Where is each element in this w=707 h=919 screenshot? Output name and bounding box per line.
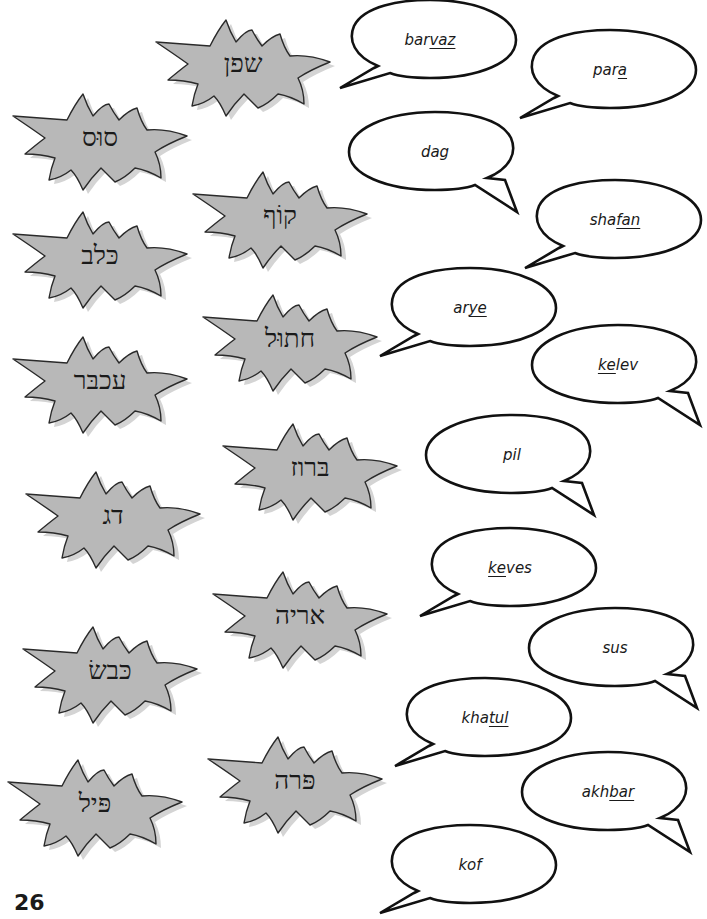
hebrew-word-text: סוּס <box>5 82 195 192</box>
hebrew-word-text: אריה <box>205 560 395 670</box>
transliteration-text: keves <box>488 559 532 577</box>
hebrew-word-burst-keves: כּבשׂ <box>15 615 205 725</box>
speech-bubble-kof: kof <box>380 825 560 919</box>
transliteration-text: arye <box>453 299 486 317</box>
transliteration-text: shafan <box>590 211 641 229</box>
transliteration-text: kelev <box>598 356 638 374</box>
transliteration-text: akhbar <box>582 783 634 801</box>
hebrew-word-burst-pil: פּיל <box>0 748 190 858</box>
hebrew-word-burst-para: פּרה <box>200 725 390 835</box>
hebrew-word-text: פּרה <box>200 725 390 835</box>
transliteration-text: pil <box>503 446 521 464</box>
hebrew-word-burst-sus: סוּס <box>5 82 195 192</box>
hebrew-word-text: דג <box>18 460 208 570</box>
speech-bubble-shape-icon <box>528 325 707 425</box>
transliteration-text: khatul <box>462 709 509 727</box>
speech-bubble-shape-icon <box>345 112 525 212</box>
speech-bubble-dag: dag <box>345 112 525 212</box>
speech-bubble-shape-icon <box>525 180 705 280</box>
transliteration-text: para <box>593 61 627 79</box>
speech-bubble-shape-icon <box>520 30 700 130</box>
hebrew-word-burst-barvaz: בּרוז <box>215 412 405 522</box>
hebrew-word-text: פּיל <box>0 748 190 858</box>
hebrew-word-text: עכבּר <box>5 325 195 435</box>
speech-bubble-shape-icon <box>422 415 602 515</box>
speech-bubble-kelev: kelev <box>528 325 707 425</box>
speech-bubble-shape-icon <box>340 0 520 100</box>
hebrew-word-text: כּלב <box>5 200 195 310</box>
hebrew-word-burst-dag: דג <box>18 460 208 570</box>
hebrew-word-text: בּרוז <box>215 412 405 522</box>
transliteration-text: sus <box>602 639 627 657</box>
transliteration-text: barvaz <box>405 31 456 49</box>
hebrew-word-burst-akhbar: עכבּר <box>5 325 195 435</box>
hebrew-word-burst-khatul: חתוּל <box>195 283 385 393</box>
hebrew-word-burst-kelev: כּלב <box>5 200 195 310</box>
speech-bubble-para: para <box>520 30 700 130</box>
page-number: 26 <box>14 890 45 915</box>
hebrew-word-text: כּבשׂ <box>15 615 205 725</box>
transliteration-text: kof <box>458 856 481 874</box>
transliteration-text: dag <box>421 143 449 161</box>
hebrew-word-burst-arye: אריה <box>205 560 395 670</box>
speech-bubble-barvaz: barvaz <box>340 0 520 100</box>
hebrew-word-text: חתוּל <box>195 283 385 393</box>
speech-bubble-shafan: shafan <box>525 180 705 280</box>
speech-bubble-pil: pil <box>422 415 602 515</box>
